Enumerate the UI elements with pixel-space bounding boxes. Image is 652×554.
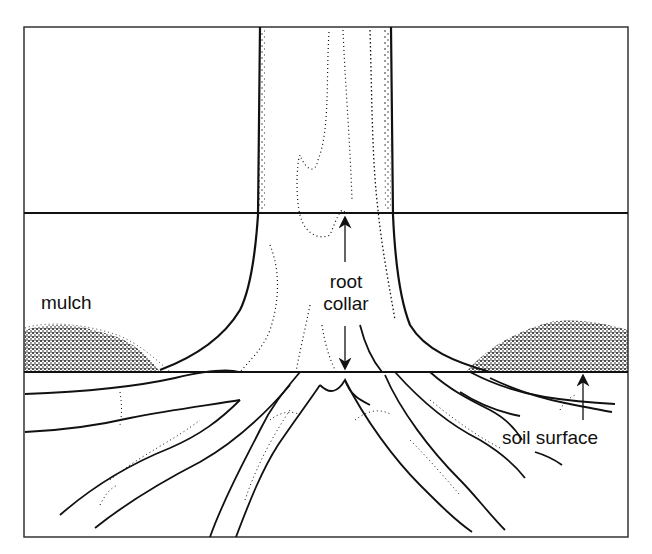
root-collar-label-line1: root xyxy=(311,271,381,293)
soil-surface-label: soil surface xyxy=(502,427,598,449)
root-collar-diagram: mulch root collar soil surface xyxy=(0,0,652,554)
tree-trunk xyxy=(160,27,490,372)
mulch-right xyxy=(466,320,628,372)
root-collar-label: root collar xyxy=(311,271,381,315)
mulch-label: mulch xyxy=(41,292,92,314)
mulch-left xyxy=(25,324,170,372)
tree-roots xyxy=(25,370,615,537)
root-collar-label-line2: collar xyxy=(311,293,381,315)
